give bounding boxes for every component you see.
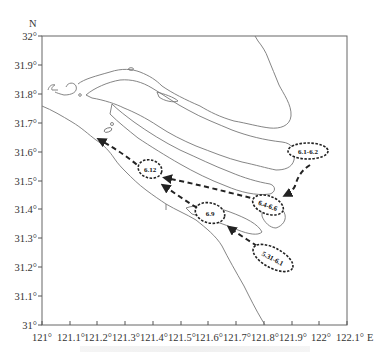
lat-tick-label: 31.6°	[14, 147, 37, 158]
lat-axis	[38, 36, 42, 325]
north-label: N	[29, 18, 37, 29]
lon-tick-label: 122°	[311, 332, 331, 343]
event-label: 6.1-6.2	[298, 148, 318, 156]
islet	[111, 123, 114, 126]
lat-tick-label: 31.3°	[14, 233, 37, 244]
event-label: 6.9	[206, 210, 215, 218]
islet	[129, 68, 134, 71]
event-label: 6.12	[144, 166, 157, 174]
lon-tick-label: 121.2°	[84, 332, 112, 343]
path-6.1-to-6.4	[286, 165, 310, 195]
chongming-island-coastline	[86, 80, 295, 170]
event-6.12: 6.12	[136, 157, 164, 181]
lon-tick-label: 121.3°	[112, 332, 140, 343]
lon-tick-label: 121.9°	[279, 332, 307, 343]
migration-paths	[100, 140, 310, 246]
east-label: E	[367, 332, 373, 343]
islet	[79, 94, 82, 97]
event-markers: 6.1-6.2 6.4-6.6 5.31-6.1 6.9 6.12	[136, 143, 328, 277]
coastlines	[42, 36, 295, 325]
lon-tick-label: 121.1°	[57, 332, 85, 343]
lon-tick-label: 121.4°	[140, 332, 168, 343]
lat-tick-labels: 32° 31.9° 31.8° 31.7° 31.6° 31.5° 31.4° …	[14, 31, 37, 331]
north-bank-coastline	[48, 36, 291, 128]
south-bank-coastline	[42, 106, 265, 325]
lat-tick-label: 31.9°	[14, 60, 37, 71]
event-6.4-6.6: 6.4-6.6	[250, 191, 286, 219]
path-5.31-to-6.9	[230, 228, 257, 246]
lon-tick-label: 121.8°	[251, 332, 279, 343]
event-6.1-6.2: 6.1-6.2	[288, 143, 328, 159]
lat-tick-label: 31.8°	[14, 89, 37, 100]
lon-tick-labels: 121° 121.1° 121.2° 121.3° 121.4° 121.5° …	[32, 332, 364, 343]
lon-tick-label: 121.7°	[223, 332, 251, 343]
lat-tick-label: 31.5°	[14, 176, 37, 187]
lat-tick-label: 31.7°	[14, 118, 37, 129]
lat-tick-label: 31.2°	[14, 262, 37, 273]
lon-axis	[42, 321, 347, 325]
estuary-map: N 32° 31.9° 31.8° 31.7° 31.6° 31.5° 31.4…	[0, 0, 386, 359]
lat-tick-label: 31.1°	[14, 291, 37, 302]
lon-tick-label: 121.6°	[195, 332, 223, 343]
lat-tick-label: 31.4°	[14, 204, 37, 215]
lat-tick-label: 32°	[22, 31, 37, 42]
lat-tick-label: 31°	[22, 320, 37, 331]
lon-tick-label: 121°	[32, 332, 52, 343]
islet	[104, 127, 113, 133]
lon-tick-label: 122.1°	[336, 332, 364, 343]
path-6.12-upstream	[100, 140, 143, 170]
lon-tick-label: 121.5°	[168, 332, 196, 343]
event-6.9: 6.9	[193, 199, 227, 226]
figure-caption-faint	[80, 346, 310, 352]
